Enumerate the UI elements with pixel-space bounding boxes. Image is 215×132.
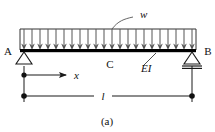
- load-arrow: [69, 29, 75, 50]
- label-distributed-load-w: w: [140, 8, 148, 20]
- load-arrow: [125, 29, 131, 50]
- load-arrow: [157, 29, 163, 50]
- load-arrow: [93, 29, 99, 50]
- dimension-right-dot: [189, 93, 195, 99]
- pin-triangle: [16, 52, 32, 64]
- span-dimension-group: [21, 66, 195, 102]
- x-axis-group: [21, 66, 66, 102]
- load-arrow: [29, 29, 35, 50]
- load-arrow: [149, 29, 155, 50]
- load-arrow-set: [21, 29, 195, 50]
- load-arrow: [37, 29, 43, 50]
- roller-triangle: [184, 52, 200, 64]
- label-x-axis: x: [73, 69, 79, 81]
- load-arrow: [109, 29, 115, 50]
- label-support-b: B: [204, 45, 211, 57]
- dimension-left-dot: [21, 93, 27, 99]
- label-span-length-l: l: [101, 90, 104, 102]
- load-arrow: [117, 29, 123, 50]
- load-arrow: [77, 29, 83, 50]
- label-support-a: A: [4, 45, 12, 57]
- load-arrow: [141, 29, 147, 50]
- load-arrow: [189, 29, 195, 50]
- load-arrow: [173, 29, 179, 50]
- load-arrow: [85, 29, 91, 50]
- beam-member: [20, 49, 196, 52]
- load-arrow: [21, 29, 27, 50]
- load-arrow: [181, 29, 187, 50]
- figure-caption: (a): [101, 115, 114, 128]
- distributed-load-group: [20, 17, 196, 50]
- support-roller-b: [182, 52, 202, 68]
- load-arrow: [133, 29, 139, 50]
- support-pin-a: [16, 52, 32, 64]
- beam-diagram-figure: A B C w EI x l (a): [0, 0, 215, 132]
- load-label-leader-line: [112, 17, 133, 29]
- beam-diagram-canvas: A B C w EI x l (a): [0, 0, 215, 132]
- load-arrow: [101, 29, 107, 50]
- load-arrow: [45, 29, 51, 50]
- load-arrow: [165, 29, 171, 50]
- x-axis-origin-dot: [21, 72, 26, 77]
- load-arrow: [53, 29, 59, 50]
- label-midspan-c: C: [106, 58, 113, 70]
- label-flexural-rigidity-ei: EI: [140, 62, 153, 74]
- load-arrow: [61, 29, 67, 50]
